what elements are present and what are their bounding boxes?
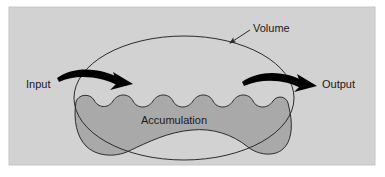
label-accumulation: Accumulation xyxy=(141,114,207,126)
panel-background xyxy=(9,7,375,165)
label-output: Output xyxy=(322,78,355,90)
label-volume: Volume xyxy=(253,22,290,34)
figure-root: Volume Input Output Accumulation xyxy=(0,0,385,177)
label-input: Input xyxy=(26,78,50,90)
diagram-canvas: Volume Input Output Accumulation xyxy=(0,0,385,177)
